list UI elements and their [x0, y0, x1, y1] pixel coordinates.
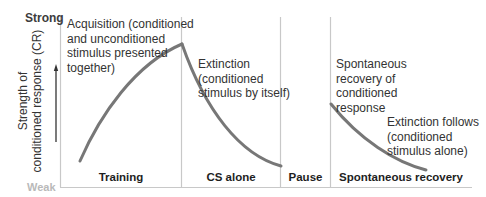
y-axis-strong-label: Strong — [25, 11, 64, 25]
spontaneous-recovery-annotation: Spontaneous recovery of conditioned resp… — [336, 57, 407, 115]
extinction-annotation: Extinction (conditioned stimulus by itse… — [198, 57, 290, 101]
y-axis-weak-label: Weak — [27, 181, 56, 193]
phase-label-training: Training — [61, 171, 181, 183]
y-axis-title-line2: conditioned response (CR) — [30, 30, 44, 173]
extinction-follows-annotation: Extinction follows (conditioned stimulus… — [387, 115, 479, 159]
acquisition-annotation: Acquisition (conditioned and uncondition… — [67, 17, 194, 75]
y-axis-title: Strength of conditioned response (CR) — [5, 42, 55, 160]
phase-label-spontaneous-recovery: Spontaneous recovery — [331, 171, 471, 183]
phase-label-pause: Pause — [281, 171, 330, 183]
phase-label-cs-alone: CS alone — [182, 171, 280, 183]
y-axis-title-line1: Strength of — [16, 30, 30, 173]
